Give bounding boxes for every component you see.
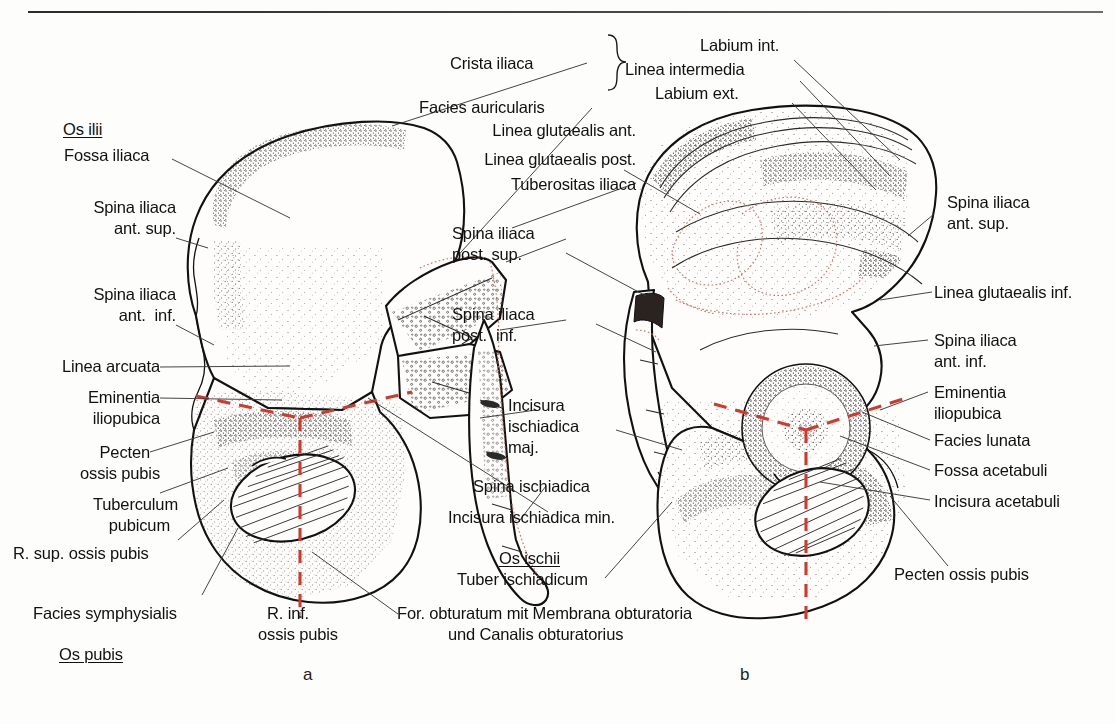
label-spina-iliaca-post-inf-1: Spina iliaca <box>452 305 535 324</box>
label-eminentia-iliopubica-a-2: iliopubica <box>0 409 160 428</box>
label-spina-iliaca-post-inf-2: post. inf. <box>452 326 517 345</box>
label-incisura-acetabuli: Incisura acetabuli <box>934 492 1060 511</box>
label-spina-iliaca-ant-inf-a-1: Spina iliaca <box>0 285 176 304</box>
label-incisura-ischiadica-min: Incisura ischiadica min. <box>448 508 615 527</box>
label-linea-glutaealis-inf: Linea glutaealis inf. <box>934 283 1072 302</box>
label-tuberculum-pubicum-1: Tuberculum <box>0 495 178 514</box>
label-fossa-iliaca: Fossa iliaca <box>64 146 149 165</box>
label-facies-symphysialis: Facies symphysialis <box>33 604 177 623</box>
label-spina-iliaca-post-sup-1: Spina iliaca <box>452 224 535 243</box>
label-pecten-ossis-pubis-a-1: Pecten <box>0 443 150 462</box>
label-incisura-ischiadica-maj-1: Incisura <box>508 396 565 415</box>
label-eminentia-iliopubica-b-2: iliopubica <box>934 404 1001 423</box>
label-linea-arcuata: Linea arcuata <box>0 357 160 376</box>
label-spina-iliaca-ant-inf-b-1: Spina iliaca <box>934 331 1017 350</box>
label-spina-iliaca-post-sup-2: post. sup. <box>452 245 522 264</box>
label-linea-glutaealis-post: Linea glutaealis post. <box>400 150 636 169</box>
figure-plate: Os ilii Fossa iliaca Spina iliaca ant. s… <box>0 0 1115 724</box>
label-pecten-ossis-pubis-a-2: ossis pubis <box>0 464 160 483</box>
label-tuberculum-pubicum-2: pubicum <box>0 516 170 535</box>
label-labium-ext: Labium ext. <box>655 84 739 103</box>
label-spina-iliaca-ant-sup-a-1: Spina iliaca <box>0 198 176 217</box>
label-incisura-ischiadica-maj-2: ischiadica <box>508 417 579 436</box>
label-os-ilii: Os ilii <box>63 120 102 139</box>
label-linea-glutaealis-ant: Linea glutaealis ant. <box>400 121 636 140</box>
bone-lateral-view <box>624 104 948 630</box>
panel-id-a: a <box>303 665 312 685</box>
cartilage-line-a-upper-right <box>300 392 412 418</box>
label-r-inf-ossis-pubis-2: ossis pubis <box>258 625 338 644</box>
label-tuber-ischiadicum: Tuber ischiadicum <box>457 570 588 589</box>
label-spina-iliaca-ant-sup-b-2: ant. sup. <box>947 214 1009 233</box>
label-pecten-ossis-pubis-b: Pecten ossis pubis <box>894 565 1029 584</box>
crista-brace <box>608 35 626 90</box>
label-spina-ischiadica: Spina ischiadica <box>473 477 590 496</box>
label-foramen-obturatum-1: For. obturatum mit Membrana obturatoria <box>397 604 692 623</box>
label-foramen-obturatum-2: und Canalis obturatorius <box>448 625 623 644</box>
label-spina-iliaca-ant-sup-b-1: Spina iliaca <box>947 193 1030 212</box>
label-crista-iliaca: Crista iliaca <box>450 54 533 73</box>
label-os-pubis: Os pubis <box>59 645 123 664</box>
label-facies-lunata: Facies lunata <box>934 431 1030 450</box>
label-linea-intermedia: Linea intermedia <box>625 60 745 79</box>
top-rule <box>28 11 1103 13</box>
cartilage-line-b-upper-right <box>806 398 906 430</box>
label-spina-iliaca-ant-inf-b-2: ant. inf. <box>934 352 987 371</box>
label-fossa-acetabuli: Fossa acetabuli <box>934 461 1047 480</box>
label-eminentia-iliopubica-a-1: Eminentia <box>0 388 160 407</box>
label-labium-int: Labium int. <box>700 36 779 55</box>
panel-id-b: b <box>740 665 749 685</box>
cartilage-line-b-upper-left <box>714 404 806 430</box>
label-tuberositas-iliaca: Tuberositas iliaca <box>400 175 636 194</box>
label-incisura-ischiadica-maj-3: maj. <box>508 438 539 457</box>
label-r-sup-ossis-pubis: R. sup. ossis pubis <box>13 544 149 563</box>
label-facies-auricularis: Facies auricularis <box>419 98 545 117</box>
label-os-ischii: Os ischii <box>499 549 560 568</box>
label-spina-iliaca-ant-sup-a-2: ant. sup. <box>0 219 176 238</box>
label-spina-iliaca-ant-inf-a-2: ant. inf. <box>0 306 176 325</box>
cartilage-line-a-upper-left <box>196 396 300 418</box>
label-r-inf-ossis-pubis-1: R. inf. <box>267 604 309 623</box>
bone-medial-view <box>188 121 548 618</box>
label-eminentia-iliopubica-b-1: Eminentia <box>934 383 1006 402</box>
